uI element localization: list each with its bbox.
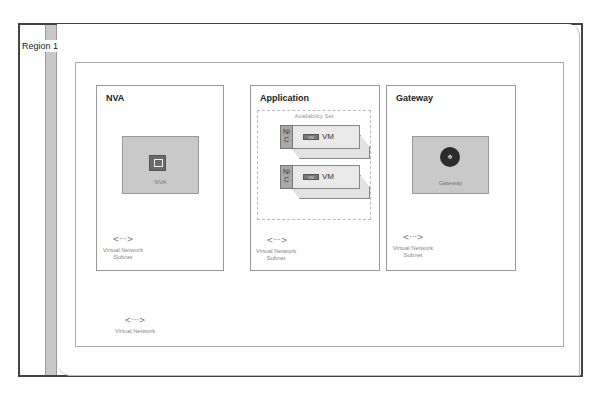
nva-appliance-icon <box>149 155 166 171</box>
caption-line: Virtual Network <box>93 247 153 254</box>
nva-label: NVA <box>122 179 199 185</box>
caption-line: Virtual Network <box>246 248 306 255</box>
subnet-title: Application <box>260 93 309 103</box>
nic-1[interactable]: NI C <box>280 125 293 149</box>
subnet-caption: Virtual Network Subnet <box>93 247 153 261</box>
vnet-subnet-icon: <···> <box>257 236 297 245</box>
vm-label: VM <box>322 132 334 141</box>
caption-line: Virtual Network <box>383 245 443 252</box>
vm-icon: VM <box>303 174 319 180</box>
vnet-icon: <···> <box>120 316 150 325</box>
vm-icon: VM <box>303 134 319 140</box>
region-band <box>45 25 57 375</box>
nic-2[interactable]: NI C <box>280 165 293 189</box>
virtual-network-label: Virtual Network <box>105 328 165 335</box>
subnet-title: NVA <box>106 93 124 103</box>
nic-label: C <box>281 176 292 184</box>
subnet-caption: Virtual Network Subnet <box>246 248 306 262</box>
nic-label: C <box>281 136 292 144</box>
availability-set-label: Availability Set <box>257 113 371 119</box>
vnet-subnet-icon: <···> <box>103 235 143 244</box>
vnet-subnet-icon: <···> <box>393 233 433 242</box>
caption-line: Subnet <box>93 254 153 261</box>
subnet-title: Gateway <box>396 93 433 103</box>
gateway-label: Gateway <box>412 180 489 186</box>
nic-label: NI <box>281 128 292 136</box>
gateway-arrows-icon: ✥ <box>440 147 460 167</box>
region-label: Region 1 <box>20 40 60 52</box>
subnet-caption: Virtual Network Subnet <box>383 245 443 259</box>
caption-line: Subnet <box>383 252 443 259</box>
vm-label: VM <box>322 172 334 181</box>
caption-line: Subnet <box>246 255 306 262</box>
nic-label: NI <box>281 168 292 176</box>
